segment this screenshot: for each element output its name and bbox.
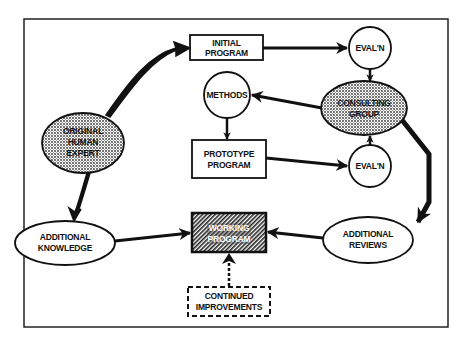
node-label-line: INITIAL: [212, 38, 240, 48]
node-initial-program: INITIAL PROGRAM: [190, 35, 263, 60]
node-label-line: ADDITIONAL: [40, 232, 90, 242]
node-label-line: EVAL'N: [356, 43, 385, 53]
node-label-line: EXPERT: [67, 148, 101, 158]
node-label-line: ADDITIONAL: [343, 229, 393, 239]
node-label-line: ORIGINAL: [63, 126, 103, 136]
edge-knowledge-to-working: [115, 233, 190, 241]
node-additional-reviews: ADDITIONAL REVIEWS: [323, 217, 413, 263]
edge-consulting-to-methods: [252, 95, 322, 108]
edge-improvements-arrowhead: [222, 253, 236, 264]
node-methods: METHODS: [204, 72, 250, 118]
node-label-line: PROGRAM: [208, 160, 251, 170]
edge-consulting-to-reviews: [402, 120, 429, 222]
node-label-line: REVIEWS: [349, 240, 387, 250]
node-consulting-group: CONSULTING GROUP: [321, 81, 407, 135]
node-original-human-expert: ORIGINAL HUMAN EXPERT: [42, 113, 124, 173]
expert-system-development-diagram: ORIGINAL HUMAN EXPERT INITIAL PROGRAM EV…: [0, 0, 470, 348]
edge-expert-to-initial: [106, 42, 190, 117]
node-label-line: CONTINUED: [205, 291, 254, 301]
node-label-line: IMPROVEMENTS: [196, 302, 263, 312]
node-label-line: WORKING: [209, 223, 250, 233]
node-evaln-top: EVAL'N: [349, 27, 391, 69]
node-label-line: EVAL'N: [356, 161, 385, 171]
edge-expert-to-knowledge: [69, 173, 90, 221]
node-label-line: KNOWLEDGE: [38, 243, 93, 253]
node-prototype-program: PROTOTYPE PROGRAM: [192, 140, 266, 178]
node-label-line: CONSULTING: [337, 98, 391, 108]
node-label-line: PROTOTYPE: [204, 149, 255, 159]
edge-prototype-to-evaln: [266, 158, 347, 166]
node-label-line: GROUP: [349, 109, 380, 119]
node-evaln-bottom: EVAL'N: [349, 145, 391, 187]
node-label-line: PROGRAM: [208, 234, 251, 244]
edge-reviews-to-working: [268, 232, 323, 238]
node-additional-knowledge: ADDITIONAL KNOWLEDGE: [15, 221, 115, 265]
node-label-line: PROGRAM: [205, 48, 248, 58]
node-label-line: HUMAN: [68, 137, 99, 147]
node-continued-improvements: CONTINUED IMPROVEMENTS: [188, 287, 270, 316]
node-label-line: METHODS: [206, 90, 248, 100]
node-working-program: WORKING PROGRAM: [192, 213, 266, 252]
